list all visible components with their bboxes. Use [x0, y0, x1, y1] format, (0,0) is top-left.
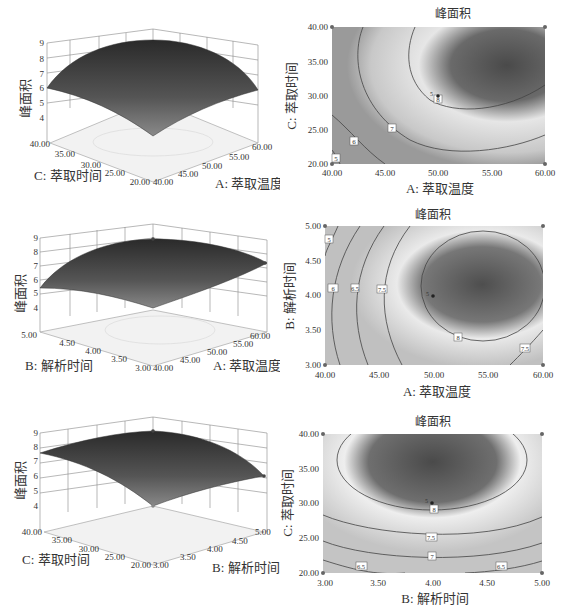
svg-text:4.50: 4.50: [305, 256, 321, 266]
z-axis-label: 峰面积: [13, 461, 28, 500]
svg-text:40.00: 40.00: [30, 139, 51, 149]
svg-text:3.00: 3.00: [317, 578, 333, 588]
y-axis-label: C: 萃取时间: [284, 62, 299, 130]
svg-text:5: 5: [334, 155, 338, 163]
svg-text:9: 9: [40, 38, 45, 48]
svg-text:40.00: 40.00: [22, 527, 43, 537]
svg-text:60.00: 60.00: [250, 331, 271, 341]
chart-title: 峰面积: [415, 415, 451, 429]
svg-text:4.00: 4.00: [85, 346, 101, 356]
svg-text:4: 4: [34, 303, 39, 313]
svg-text:5: 5: [40, 98, 45, 108]
chart-title: 峰面积: [415, 208, 451, 222]
response-surface: [40, 431, 264, 506]
svg-text:25.00: 25.00: [105, 168, 126, 178]
svg-text:50.00: 50.00: [428, 168, 449, 178]
contour-plot-temp-vs-desorption-time: 峰面积 5 6 6.5 7.5 8 7.5 5 5.00 4.50 4.00 3…: [280, 200, 563, 400]
x-axis-label: A: 萃取温度: [406, 181, 474, 196]
svg-text:4.00: 4.00: [207, 544, 223, 554]
chart-title: 峰面积: [435, 7, 471, 21]
svg-text:35.00: 35.00: [308, 57, 329, 67]
svg-text:40.00: 40.00: [299, 429, 320, 439]
svg-text:60.00: 60.00: [252, 142, 273, 152]
svg-text:30.00: 30.00: [299, 498, 320, 508]
x-axis-label: A: 萃取温度: [213, 358, 280, 373]
svg-text:30.00: 30.00: [308, 91, 329, 101]
surface-plot-temp-vs-desorption-time: 9 8 7 6 5 4 峰面积 5.00 4.50 4.00 3.50 3.00…: [0, 200, 280, 400]
svg-text:3.00: 3.00: [305, 360, 321, 370]
svg-text:20.00: 20.00: [299, 568, 320, 578]
x-axis-ticks: 40.00 45.00 50.00 55.00 60.00: [315, 370, 554, 380]
y-axis-label: C: 萃取时间: [280, 469, 295, 537]
svg-text:4: 4: [34, 501, 39, 511]
z-axis-ticks: 9 8 7 6 5 4: [34, 233, 39, 313]
contour-plot-temp-vs-extraction-time: 峰面积 8 7 6 5 5 40.00 35.00 30.00 25.00 20…: [280, 0, 563, 200]
svg-text:50.00: 50.00: [202, 161, 223, 171]
y-axis-label: B: 解析时间: [25, 358, 93, 373]
svg-text:50.00: 50.00: [424, 370, 445, 380]
svg-text:6: 6: [34, 275, 39, 285]
svg-text:6: 6: [34, 471, 39, 481]
svg-text:35.00: 35.00: [55, 149, 76, 159]
svg-text:7: 7: [40, 69, 45, 79]
x-axis-label: A: 萃取温度: [403, 384, 471, 399]
svg-text:35.00: 35.00: [52, 535, 73, 545]
svg-text:7.5: 7.5: [427, 534, 435, 541]
svg-text:55.00: 55.00: [229, 152, 250, 162]
svg-text:4.00: 4.00: [305, 290, 321, 300]
svg-text:40.00: 40.00: [308, 22, 329, 32]
svg-text:35.00: 35.00: [299, 464, 320, 474]
response-surface: [40, 239, 267, 308]
svg-text:7: 7: [34, 456, 39, 466]
y-axis-label: C: 萃取时间: [34, 168, 102, 183]
svg-text:4.00: 4.00: [425, 578, 441, 588]
x-axis-label: A: 萃取温度: [215, 176, 280, 191]
svg-text:55.00: 55.00: [482, 168, 503, 178]
response-surface: [47, 40, 258, 136]
design-center-point: [431, 294, 435, 298]
svg-text:4.50: 4.50: [479, 578, 495, 588]
design-center-point: [436, 94, 440, 98]
svg-text:8: 8: [34, 442, 39, 452]
x-axis-ticks: 40.00 45.00 50.00 55.00 60.00: [322, 168, 556, 178]
svg-text:5: 5: [425, 498, 428, 504]
svg-text:40.00: 40.00: [153, 177, 174, 187]
svg-text:9: 9: [34, 233, 39, 243]
surface-plot-temp-vs-extraction-time: 9 8 7 6 5 4 峰面积 40.00 35.00 30.00 25.00 …: [0, 0, 280, 200]
svg-text:5.00: 5.00: [534, 578, 550, 588]
y-axis-ticks: 40.00 35.00 30.00 25.00 20.00: [299, 429, 320, 578]
svg-text:7.5: 7.5: [378, 286, 386, 293]
surface-plot-desorption-vs-extraction-time: 9 8 7 6 5 4 峰面积 40.00 35.00 30.00 25.00 …: [0, 400, 280, 612]
y-axis-label: B: 解析时间: [282, 262, 297, 330]
svg-text:5.00: 5.00: [255, 527, 271, 537]
svg-text:3.00: 3.00: [135, 363, 151, 373]
svg-text:4.50: 4.50: [59, 338, 75, 348]
svg-text:5: 5: [34, 288, 39, 298]
svg-text:25.00: 25.00: [299, 533, 320, 543]
svg-text:3.50: 3.50: [111, 354, 127, 364]
z-axis-label: 峰面积: [18, 79, 33, 118]
svg-text:8: 8: [432, 506, 435, 513]
svg-text:6.5: 6.5: [497, 563, 505, 570]
svg-text:7: 7: [390, 125, 394, 133]
svg-text:8: 8: [456, 334, 459, 341]
svg-text:45.00: 45.00: [369, 370, 390, 380]
svg-text:40.00: 40.00: [315, 370, 336, 380]
z-axis-ticks: 9 8 7 6 5 4: [40, 38, 45, 123]
svg-text:8: 8: [40, 54, 45, 64]
x-axis-label: B: 解析时间: [401, 591, 469, 606]
y-axis-ticks: 5.00 4.50 4.00 3.50 3.00: [305, 221, 321, 370]
svg-text:5: 5: [426, 291, 429, 297]
z-axis-label: 峰面积: [13, 274, 28, 313]
svg-text:20.00: 20.00: [130, 177, 151, 187]
design-center-point: [430, 501, 434, 505]
svg-text:60.00: 60.00: [535, 168, 556, 178]
svg-text:5: 5: [327, 236, 330, 243]
svg-text:40.00: 40.00: [322, 168, 343, 178]
svg-text:25.00: 25.00: [105, 552, 126, 562]
svg-text:40.00: 40.00: [153, 363, 174, 373]
svg-text:7: 7: [34, 261, 39, 271]
svg-text:20.00: 20.00: [131, 560, 152, 570]
y-axis-label: C: 萃取时间: [22, 552, 90, 567]
svg-text:6: 6: [40, 83, 45, 93]
